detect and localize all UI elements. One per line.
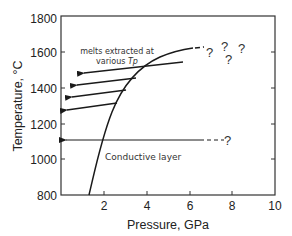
adiabat-curve-dashed [195, 47, 204, 48]
y-tick-1000: 1000 [30, 153, 57, 167]
y-axis-title: Temperature, °C [11, 60, 25, 151]
arrow-3 [72, 90, 126, 97]
question-mark-5: ? [224, 133, 231, 148]
x-tick-labels: 2 4 6 8 10 [101, 199, 282, 213]
question-marks: ? ? ? ? ? [206, 39, 245, 148]
question-mark-4: ? [238, 41, 245, 56]
y-tick-1200: 1200 [30, 118, 57, 132]
x-tick-4: 4 [144, 199, 151, 213]
x-tick-6: 6 [187, 199, 194, 213]
y-tick-1800: 1800 [30, 12, 57, 26]
x-tick-10: 10 [268, 199, 282, 213]
melts-label-line2: various Tp [96, 57, 138, 66]
conductive-layer-label: Conductive layer [105, 152, 181, 162]
y-tick-labels: 1800 1600 1400 1200 1000 800 [30, 12, 57, 203]
x-tick-2: 2 [101, 199, 108, 213]
chart: 1800 1600 1400 1200 1000 800 2 4 6 8 10 … [0, 0, 292, 236]
y-tick-1400: 1400 [30, 82, 57, 96]
y-tick-800: 800 [37, 189, 57, 203]
melts-label-various: various [96, 57, 128, 66]
question-mark-3: ? [225, 52, 232, 67]
y-tick-1600: 1600 [30, 46, 57, 60]
melts-label-line1: melts extracted at [80, 47, 154, 56]
x-tick-8: 8 [229, 199, 236, 213]
question-mark-1: ? [206, 45, 213, 60]
x-ticks [104, 191, 232, 195]
y-ticks [61, 52, 275, 159]
arrow-4 [67, 103, 117, 110]
x-axis-title: Pressure, GPa [127, 218, 209, 232]
melts-label-tp: Tp [128, 57, 138, 66]
